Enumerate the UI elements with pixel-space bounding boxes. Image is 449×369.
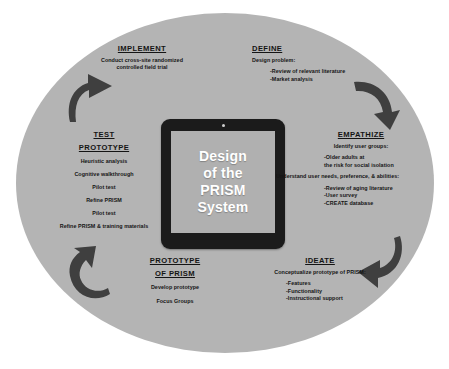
stage-prototype-of-prism-items: Develop prototype Focus Groups (112, 284, 238, 305)
stage-empathize-lead: Identify user groups: (276, 143, 446, 151)
stage-define: DEFINE Design problem: -Review of releva… (252, 44, 402, 83)
stage-implement-line-1: Conduct cross-site randomized (72, 57, 212, 65)
stage-test-prototype-item-3: Pilot test (38, 184, 170, 192)
stage-empathize-bullets-2: -Review of aging literature -User survey… (276, 185, 446, 208)
stage-ideate: IDEATE Conceptualize prototype of PRISM:… (240, 256, 400, 303)
stage-empathize: EMPATHIZE Identify user groups: -Older a… (276, 130, 446, 208)
camera-dot-icon (222, 124, 225, 127)
stage-ideate-bullets: -Features -Functionality -Instructional … (240, 280, 400, 303)
stage-test-prototype-item-1: Heuristic analysis (38, 158, 170, 166)
center-title-line-4: System (197, 199, 248, 216)
stage-test-prototype-heading-line-1: TEST (38, 130, 170, 140)
stage-implement-body: Conduct cross-site randomized controlled… (72, 57, 212, 72)
stage-ideate-bullet-3: -Instructional support (286, 295, 400, 303)
stage-test-prototype-item-2: Cognitive walkthrough (38, 171, 170, 179)
stage-prototype-of-prism-item-2: Focus Groups (112, 298, 238, 306)
stage-empathize-bullet-4: -User survey (324, 192, 446, 200)
stage-implement-line-2: controlled field trial (72, 64, 212, 72)
stage-empathize-bullet-1: -Older adults at (324, 154, 446, 162)
stage-empathize-body: Identify user groups: -Older adults at t… (276, 143, 446, 208)
stage-empathize-bullets: -Older adults at the risk for social iso… (276, 154, 446, 169)
stage-ideate-bullet-2: -Functionality (286, 288, 400, 296)
stage-ideate-heading: IDEATE (240, 256, 400, 266)
stage-prototype-of-prism-item-1: Develop prototype (112, 284, 238, 292)
center-title-line-3: PRISM (200, 182, 245, 199)
stage-test-prototype-item-6: Refine PRISM & training materials (38, 223, 170, 231)
stage-ideate-bullet-1: -Features (286, 280, 400, 288)
stage-define-lead: Design problem: (252, 57, 402, 65)
figure-canvas: Design of the PRISM System IMPLEMENT Con… (0, 0, 449, 369)
stage-empathize-bullet-3: -Review of aging literature (324, 185, 446, 193)
center-title-line-2: of the (203, 165, 242, 182)
tablet-screen: Design of the PRISM System (171, 131, 275, 233)
stage-define-heading: DEFINE (252, 44, 402, 54)
stage-define-bullet-2: -Market analysis (270, 76, 402, 84)
center-tablet: Design of the PRISM System (161, 119, 285, 249)
stage-define-bullets: -Review of relevant literature -Market a… (252, 68, 402, 83)
stage-test-prototype: TEST PROTOTYPE Heuristic analysis Cognit… (38, 130, 170, 231)
stage-define-bullet-1: -Review of relevant literature (270, 68, 402, 76)
stage-test-prototype-item-4: Refine PRISM (38, 197, 170, 205)
stage-prototype-of-prism-heading-line-1: PROTOTYPE (112, 256, 238, 266)
stage-test-prototype-item-5: Pilot test (38, 210, 170, 218)
stage-define-body: Design problem: -Review of relevant lite… (252, 57, 402, 84)
stage-empathize-heading: EMPATHIZE (276, 130, 446, 140)
stage-ideate-body: Conceptualize prototype of PRISM: -Featu… (240, 269, 400, 303)
stage-implement-heading: IMPLEMENT (72, 44, 212, 54)
stage-test-prototype-items: Heuristic analysis Cognitive walkthrough… (38, 158, 170, 231)
stage-empathize-lead-2: Understand user needs, preference, & abi… (276, 173, 446, 181)
stage-prototype-of-prism: PROTOTYPE OF PRISM Develop prototype Foc… (112, 256, 238, 305)
stage-ideate-lead: Conceptualize prototype of PRISM: (240, 269, 400, 277)
stage-prototype-of-prism-heading-line-2: OF PRISM (112, 269, 238, 279)
center-title-line-1: Design (199, 148, 247, 165)
stage-test-prototype-heading-line-2: PROTOTYPE (38, 143, 170, 153)
stage-implement: IMPLEMENT Conduct cross-site randomized … (72, 44, 212, 72)
stage-empathize-bullet-5: -CREATE database (324, 200, 446, 208)
stage-empathize-bullet-2: the risk for social isolation (324, 162, 446, 170)
